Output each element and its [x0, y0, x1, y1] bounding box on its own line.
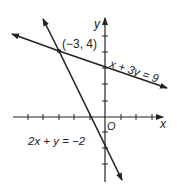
- x-axis-label: x: [159, 117, 167, 131]
- coordinate-graph: (−3, 4) y x O x + 3y = 9 2x + y = −2: [0, 0, 177, 187]
- line-1-equation-label: x + 3y = 9: [107, 57, 160, 85]
- origin-label: O: [107, 120, 116, 132]
- y-axis-label: y: [93, 17, 101, 31]
- x-axis: [13, 114, 163, 120]
- intersection-label: (−3, 4): [62, 37, 97, 51]
- line-2-equation-label: 2x + y = −2: [27, 135, 86, 147]
- intersection-point: [57, 49, 61, 53]
- y-axis: [102, 18, 108, 182]
